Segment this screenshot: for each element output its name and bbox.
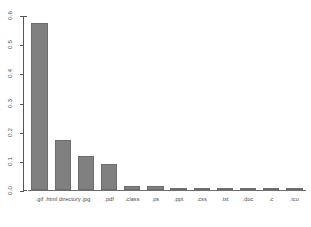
bar [31,23,47,190]
x-tick-label: .ico [271,196,311,202]
bar [55,140,71,190]
x-axis-tick-labels: .gif.html directory.jpg.pdf.class.ps.ppt… [28,196,306,214]
y-tick-label: 0.1 [6,152,13,170]
y-tick-label: 0.6 [6,7,13,25]
y-tick-mark [20,16,24,17]
y-tick-mark [20,45,24,46]
bar-chart: 0.00.10.20.30.40.50.6 .gif.html director… [0,0,311,227]
y-tick-mark [20,191,24,192]
x-axis-line [28,190,306,191]
y-axis: 0.00.10.20.30.40.50.6 [0,0,28,227]
y-tick-mark [20,162,24,163]
y-tick-mark [20,104,24,105]
y-tick-mark [20,133,24,134]
y-tick-label: 0.5 [6,36,13,54]
y-tick-label: 0.0 [6,182,13,200]
y-tick-label: 0.4 [6,65,13,83]
plot-area [28,16,306,191]
y-tick-mark [20,74,24,75]
bar [101,164,117,190]
y-tick-label: 0.3 [6,94,13,112]
y-tick-label: 0.2 [6,123,13,141]
bar [78,156,94,190]
